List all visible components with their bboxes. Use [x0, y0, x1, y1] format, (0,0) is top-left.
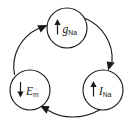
- diagram-canvas: gNa INa Em: [0, 0, 132, 123]
- edge-gna-to-ina-arrowhead: [107, 62, 115, 71]
- edge-em-to-gna: [14, 25, 48, 75]
- node-e-m-subscript: m: [33, 91, 39, 98]
- sodium-cycle-diagram: gNa INa Em: [0, 0, 132, 123]
- node-i-na-subscript: Na: [103, 91, 112, 98]
- node-g-na[interactable]: gNa: [47, 8, 87, 48]
- node-i-na[interactable]: INa: [83, 70, 123, 110]
- edge-gna-to-ina: [86, 19, 115, 71]
- node-e-m[interactable]: Em: [10, 70, 50, 110]
- node-g-na-subscript: Na: [68, 29, 77, 36]
- node-e-m-symbol: E: [25, 85, 33, 97]
- edge-gna-to-ina-line: [86, 19, 113, 62]
- edge-ina-to-em-line: [49, 110, 100, 117]
- edge-em-to-gna-line: [14, 29, 39, 75]
- edge-ina-to-em: [40, 106, 100, 117]
